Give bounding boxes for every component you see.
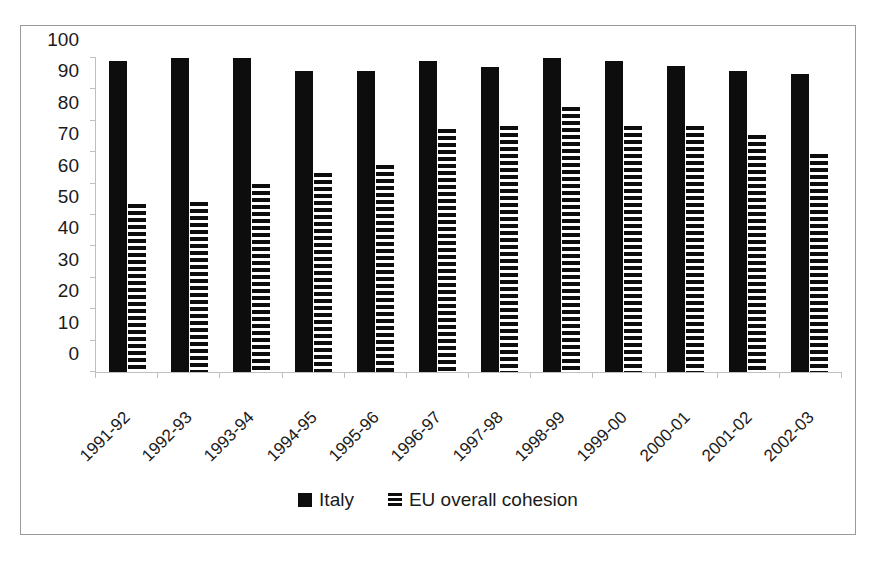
legend-item[interactable]: Italy — [298, 490, 354, 509]
bar-italy — [357, 71, 375, 372]
x-axis-tick — [841, 372, 842, 378]
bar-group — [779, 58, 841, 372]
bar-group — [468, 58, 530, 372]
bar-italy — [109, 61, 127, 372]
y-axis-tick-label: 10 — [58, 312, 79, 331]
y-axis-tick-label: 0 — [68, 344, 79, 363]
x-axis-tick — [406, 372, 407, 378]
legend-item[interactable]: EU overall cohesion — [388, 490, 578, 509]
y-axis-tick-label: 50 — [58, 187, 79, 206]
bar-groups — [96, 58, 841, 372]
bar-eu-overall-cohesion — [810, 154, 828, 372]
y-axis-tick-label: 70 — [58, 124, 79, 143]
x-axis-tick — [592, 372, 593, 378]
bar-italy — [481, 67, 499, 372]
y-axis-tick-label: 40 — [58, 218, 79, 237]
y-axis-tick-label: 80 — [58, 92, 79, 111]
bar-group — [717, 58, 779, 372]
bar-group — [344, 58, 406, 372]
bar-eu-overall-cohesion — [624, 126, 642, 372]
bar-italy — [233, 58, 251, 372]
bar-group — [655, 58, 717, 372]
x-axis-tick — [157, 372, 158, 378]
bar-italy — [605, 61, 623, 372]
bar-group — [282, 58, 344, 372]
y-axis-tick-label: 100 — [47, 30, 79, 49]
bar-italy — [171, 58, 189, 372]
plot-area: 0102030405060708090100 — [95, 58, 841, 372]
bar-group — [158, 58, 220, 372]
chart-legend: ItalyEU overall cohesion — [21, 490, 855, 509]
bar-eu-overall-cohesion — [314, 173, 332, 372]
bar-italy — [295, 71, 313, 372]
chart-frame: 0102030405060708090100 1991-921992-93199… — [20, 25, 856, 535]
bar-eu-overall-cohesion — [686, 126, 704, 372]
solid-square-icon — [298, 493, 312, 507]
bar-group — [220, 58, 282, 372]
y-axis-tick-label: 30 — [58, 249, 79, 268]
bar-group — [406, 58, 468, 372]
bar-italy — [729, 71, 747, 372]
bar-italy — [791, 74, 809, 372]
x-axis-tick-label: 1991-92 — [77, 408, 133, 464]
bar-eu-overall-cohesion — [500, 126, 518, 372]
y-axis-tick-label: 60 — [58, 155, 79, 174]
bar-eu-overall-cohesion — [252, 184, 270, 372]
bar-eu-overall-cohesion — [128, 204, 146, 372]
bar-eu-overall-cohesion — [562, 107, 580, 372]
legend-item-label: Italy — [319, 490, 354, 509]
y-axis-tick-label: 20 — [58, 281, 79, 300]
legend-item-label: EU overall cohesion — [409, 490, 578, 509]
bar-italy — [667, 66, 685, 372]
bar-group — [96, 58, 158, 372]
bar-eu-overall-cohesion — [376, 165, 394, 372]
x-axis-tick — [530, 372, 531, 378]
x-axis-tick — [655, 372, 656, 378]
x-axis-tick — [282, 372, 283, 378]
y-axis-tick-label: 90 — [58, 61, 79, 80]
bar-group — [531, 58, 593, 372]
bar-italy — [419, 61, 437, 372]
x-axis-tick — [717, 372, 718, 378]
x-axis-tick — [219, 372, 220, 378]
x-axis-tick — [344, 372, 345, 378]
bar-group — [593, 58, 655, 372]
bar-eu-overall-cohesion — [748, 135, 766, 372]
bar-italy — [543, 58, 561, 372]
x-axis-tick — [95, 372, 96, 378]
bar-eu-overall-cohesion — [438, 129, 456, 372]
x-axis-tick — [779, 372, 780, 378]
hatched-square-icon — [388, 493, 402, 507]
bar-eu-overall-cohesion — [190, 202, 208, 372]
x-axis-tick — [468, 372, 469, 378]
